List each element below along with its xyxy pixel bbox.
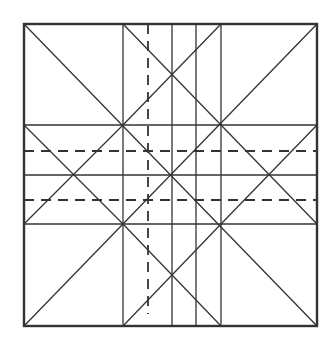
fold-diagram	[0, 0, 332, 343]
horizontal-lines	[24, 125, 317, 224]
